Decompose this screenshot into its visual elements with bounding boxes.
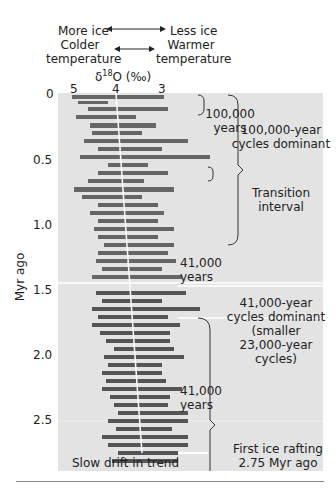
y-tick-1.0: 1.0 [33,218,52,232]
y-tick-0: 0 [46,87,54,101]
divider [16,481,324,482]
colder-label: Colder temperature [46,38,114,66]
transition-label: Transition interval [226,186,336,214]
dominant100k-label: 100,000-year cycles dominant [226,123,336,151]
y-tick-2.0: 2.0 [33,348,52,362]
y-axis-title: Myr ago [13,253,27,302]
chart-figure: More ice Less ice Colder temperature War… [0,0,336,493]
slow-drift-label: Slow drift in trend [72,456,179,470]
warmer-label: Warmer temperature [156,38,226,66]
y-tick-1.5: 1.5 [33,283,52,297]
x-axis-title: δ18O (‰) [95,67,151,84]
cycle41k-b-label: 41,000 years [180,384,222,412]
cycle41k-a-label: 41,000 years [180,256,222,284]
y-tick-2.5: 2.5 [33,413,52,427]
first-ice-label: First ice rafting 2.75 Myr ago [222,442,334,470]
y-tick-0.5: 0.5 [33,153,52,167]
dominant41k-label: 41,000-year cycles dominant (smaller 23,… [220,296,332,366]
